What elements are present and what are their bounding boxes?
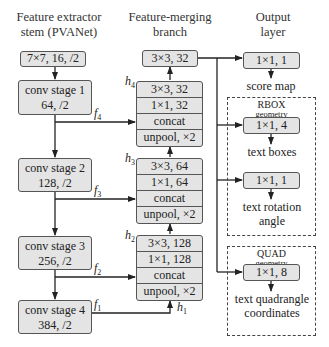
merge-block-h2-row: concat [137, 268, 202, 284]
quad-label-line2: coordinates [226, 306, 318, 320]
h3-label: h3 [125, 151, 135, 167]
merge-block-h2: 3×3, 128 1×1, 128 concat unpool, ×2 [136, 235, 203, 301]
angle-label-line1: text rotation [228, 200, 316, 214]
merge-block-h3-row: 1×1, 64 [137, 175, 202, 191]
conv-stage-2-box: conv stage 2 128, /2 [18, 158, 92, 192]
input-conv-box: 7×7, 16, /2 [20, 51, 86, 67]
text-boxes-label: text boxes [232, 145, 312, 159]
quad-conv-box: 1×1, 8 [243, 264, 300, 281]
merge-block-h4-row: unpool, ×2 [137, 130, 202, 146]
h1-label: h1 [177, 300, 187, 316]
feature-label-f1: f1 [94, 297, 101, 313]
conv-stage-1-name: conv stage 1 [19, 83, 91, 98]
conv-stage-4-params: 384, /2 [19, 318, 91, 333]
rbox-angle-conv-box: 1×1, 1 [243, 172, 300, 189]
conv-stage-4-name: conv stage 4 [19, 303, 91, 318]
h4-label: h4 [125, 74, 135, 90]
conv-stage-2-params: 128, /2 [19, 176, 91, 191]
rbox-boxes-conv-box: 1×1, 4 [243, 117, 300, 134]
feature-label-f2: f2 [94, 261, 101, 277]
h2-label: h2 [125, 228, 135, 244]
merge-block-h3-row: unpool, ×2 [137, 207, 202, 223]
merge-block-h2-row: unpool, ×2 [137, 284, 202, 300]
text-rotation-angle-label: text rotation angle [228, 200, 316, 228]
merge-block-h3: 3×3, 64 1×1, 64 concat unpool, ×2 [136, 158, 203, 224]
conv-stage-3-name: conv stage 3 [19, 239, 91, 254]
feature-label-f3: f3 [94, 183, 101, 199]
feature-label-f4: f4 [94, 106, 101, 122]
merge-block-h2-row: 3×3, 128 [137, 236, 202, 252]
conv-stage-3-box: conv stage 3 256, /2 [18, 236, 92, 270]
conv-stage-1-params: 64, /2 [19, 98, 91, 113]
merge-block-h3-row: 3×3, 64 [137, 159, 202, 175]
quad-label-line1: text quadrangle [226, 292, 318, 306]
merge-block-h2-row: 1×1, 128 [137, 252, 202, 268]
merge-block-h4-row: 1×1, 32 [137, 98, 202, 114]
merge-block-h4-row: 3×3, 32 [137, 82, 202, 98]
score-conv-box: 1×1, 1 [243, 52, 300, 69]
score-map-label: score map [236, 79, 306, 93]
merge-block-h3-row: concat [137, 191, 202, 207]
merge-top-conv-box: 3×3, 32 [142, 50, 198, 67]
conv-stage-4-box: conv stage 4 384, /2 [18, 300, 92, 334]
conv-stage-3-params: 256, /2 [19, 254, 91, 269]
angle-label-line2: angle [228, 214, 316, 228]
conv-stage-2-name: conv stage 2 [19, 161, 91, 176]
merge-block-h4: 3×3, 32 1×1, 32 concat unpool, ×2 [136, 81, 203, 147]
merge-block-h4-row: concat [137, 114, 202, 130]
text-quadrangle-coordinates-label: text quadrangle coordinates [226, 292, 318, 320]
conv-stage-1-box: conv stage 1 64, /2 [18, 80, 92, 115]
